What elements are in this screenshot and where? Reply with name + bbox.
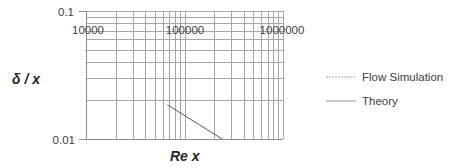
- legend-label-theory: Theory: [362, 95, 398, 107]
- legend: Flow Simulation Theory: [326, 71, 443, 107]
- x-axis-title: Re x: [170, 148, 201, 164]
- x-tick-label-100000: 100000: [166, 24, 204, 36]
- legend-label-flow-simulation: Flow Simulation: [362, 71, 443, 83]
- y-axis-title: δ / x: [12, 71, 41, 87]
- y-tick-label-top: 0.1: [58, 6, 74, 18]
- y-tick-label-bottom: 0.01: [53, 134, 75, 146]
- x-tick-label-1000000: 1000000: [260, 24, 305, 36]
- x-tick-label-10000: 10000: [72, 24, 104, 36]
- chart: 0.1 0.01 10000 100000 1000000 δ / x Re x…: [0, 0, 460, 168]
